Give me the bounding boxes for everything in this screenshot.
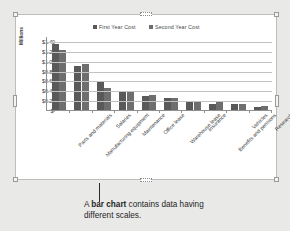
bar-group[interactable] xyxy=(48,37,70,110)
bar-group[interactable] xyxy=(70,37,92,110)
bar-group[interactable] xyxy=(115,37,137,110)
legend-label: First Year Cost xyxy=(99,24,136,30)
plot-area-wrapper xyxy=(46,37,272,111)
chart-legend[interactable]: First Year CostSecond Year Cost xyxy=(16,24,276,30)
bar-0[interactable] xyxy=(231,104,238,110)
bar-1[interactable] xyxy=(239,104,246,110)
bar-0[interactable] xyxy=(142,96,149,110)
bar-1[interactable] xyxy=(171,98,178,110)
selection-handle-bottom-center[interactable] xyxy=(140,178,152,182)
bar-group[interactable] xyxy=(227,37,249,110)
legend-label: Second Year Cost xyxy=(155,24,199,30)
selection-handle-right-center[interactable] xyxy=(275,95,279,107)
plot-area[interactable] xyxy=(46,37,272,111)
x-axis-category-label: Parts and materials xyxy=(77,112,113,148)
chart-object[interactable]: First Year CostSecond Year Cost Millions… xyxy=(15,14,277,180)
y-axis-title: Millions xyxy=(18,11,24,45)
bar-0[interactable] xyxy=(209,104,216,110)
legend-entry-0[interactable]: First Year Cost xyxy=(93,24,136,30)
legend-swatch-icon xyxy=(149,25,153,29)
bar-group[interactable] xyxy=(138,37,160,110)
gridline xyxy=(47,52,272,53)
bar-1[interactable] xyxy=(261,106,268,110)
bar-1[interactable] xyxy=(194,102,201,110)
selection-handle-top-center[interactable] xyxy=(140,12,152,16)
bar-0[interactable] xyxy=(186,102,193,110)
bar-group[interactable] xyxy=(250,37,272,110)
bar-1[interactable] xyxy=(149,95,156,110)
annotation-caption: A bar chart contains data having differe… xyxy=(84,200,234,221)
bar-0[interactable] xyxy=(97,82,104,110)
selection-handle-bottom-left[interactable] xyxy=(13,177,18,182)
legend-entry-1[interactable]: Second Year Cost xyxy=(149,24,200,30)
x-axis-category-labels: Parts and materialsManufacturing equipme… xyxy=(46,112,272,174)
gridline xyxy=(47,101,272,102)
gridline xyxy=(47,91,272,92)
gridline xyxy=(47,62,272,63)
caption-emphasis: bar chart xyxy=(91,200,126,209)
legend-swatch-icon xyxy=(93,25,97,29)
bar-group[interactable] xyxy=(205,37,227,110)
gridline xyxy=(47,42,272,43)
selection-handle-bottom-right[interactable] xyxy=(274,177,279,182)
bars-layer xyxy=(48,37,272,110)
gridline xyxy=(47,81,272,82)
gridline xyxy=(47,72,272,73)
bar-1[interactable] xyxy=(216,102,223,110)
selection-handle-left-center[interactable] xyxy=(13,95,17,107)
bar-0[interactable] xyxy=(254,107,261,110)
bar-0[interactable] xyxy=(164,98,171,110)
bar-group[interactable] xyxy=(182,37,204,110)
selection-handle-top-right[interactable] xyxy=(274,12,279,17)
bar-group[interactable] xyxy=(160,37,182,110)
bar-group[interactable] xyxy=(93,37,115,110)
